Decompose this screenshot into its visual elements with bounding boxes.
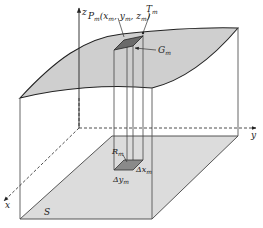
point-label: Pm(xm, ym, zm) bbox=[87, 11, 151, 22]
region-s-label: S bbox=[44, 207, 50, 217]
surface bbox=[20, 28, 238, 98]
z-axis-label: z bbox=[81, 7, 87, 17]
y-axis-label: y bbox=[250, 130, 257, 140]
surface-area-diagram: z y x Pm(xm, ym, zm) Tm Gm Rm Δxm Δym S bbox=[0, 0, 263, 228]
x-axis-label: x bbox=[5, 200, 10, 210]
region-s-floor bbox=[20, 136, 238, 219]
tangent-plane-label: Tm bbox=[146, 4, 158, 15]
tangent-point bbox=[142, 32, 144, 34]
